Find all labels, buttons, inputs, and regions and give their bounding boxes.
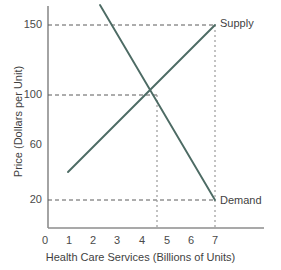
y-tick-label-150: 150 [0,19,42,30]
y-axis-title: Price (Dollars per Unit) [13,42,24,202]
supply-curve [68,25,215,172]
supply-curve-label: Supply [220,18,254,29]
demand-curve-label: Demand [220,195,262,206]
x-tick-label-7: 7 [204,235,226,246]
x-axis-title: Health Care Services (Billions of Units) [0,252,281,263]
chart-plot-area [0,0,281,270]
x-tick-label-5: 5 [156,235,178,246]
x-tick-label-2: 2 [82,235,104,246]
x-tick-label-3: 3 [106,235,128,246]
x-tick-label-4: 4 [131,235,153,246]
x-tick-label-1: 1 [58,235,80,246]
supply-demand-chart: 150 100 60 20 0 1 2 3 4 5 6 7 Supply Dem… [0,0,281,270]
x-tick-label-0: 0 [34,235,56,246]
x-tick-label-6: 6 [180,235,202,246]
